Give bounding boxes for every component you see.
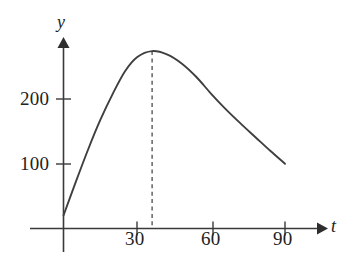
x-axis-tick-label-60: 60 [201, 228, 220, 250]
y-axis-arrow-icon [58, 37, 70, 48]
x-axis-arrow-icon [317, 223, 328, 235]
x-axis-name: t [331, 216, 336, 237]
chart-figure: 200 100 30 60 90 y t [0, 0, 355, 265]
y-axis-name: y [57, 12, 65, 33]
chart-canvas [0, 0, 355, 265]
y-axis-tick-label-100: 100 [20, 153, 49, 175]
y-axis-tick-label-200: 200 [20, 88, 49, 110]
x-axis-tick-label-90: 90 [273, 228, 292, 250]
data-curve [64, 51, 286, 216]
x-axis-tick-label-30: 30 [125, 228, 144, 250]
